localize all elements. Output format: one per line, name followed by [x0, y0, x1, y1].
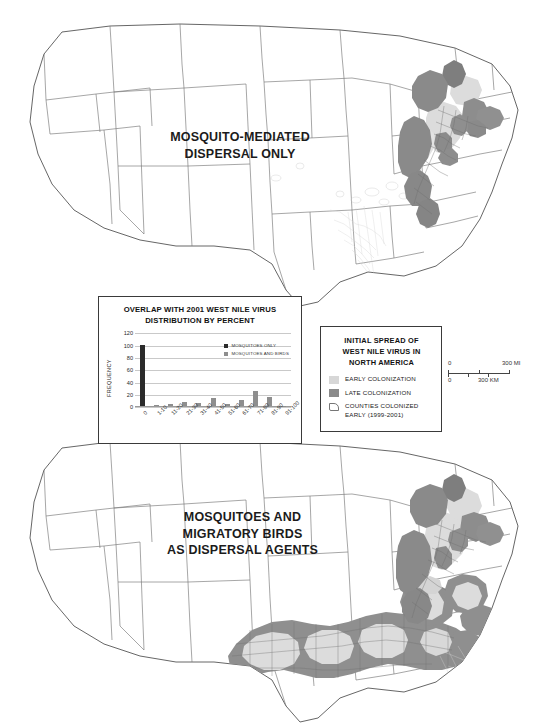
map-legend-entries: EARLY COLONIZATIONLATE COLONIZATIONCOUNT… — [329, 375, 434, 420]
scale-bar-miles-end: 300 MI — [502, 360, 520, 366]
map-legend-label-line: COUNTIES COLONIZED — [345, 402, 418, 411]
scale-bar-miles-row: 0 300 MI — [448, 360, 534, 370]
scale-bar: 0 300 MI 0 300 KM — [448, 360, 534, 387]
overlap-bar-chart-card: OVERLAP WITH 2001 WEST NILE VIRUS DISTRI… — [98, 296, 302, 444]
map-legend-item: EARLY COLONIZATION — [329, 375, 434, 384]
chart-x-tick-slot: 31-40 — [192, 409, 206, 437]
chart-bar-slot — [135, 333, 149, 406]
map-legend-title: INITIAL SPREAD OF WEST NILE VIRUS IN NOR… — [329, 335, 434, 368]
scale-bar-km-row: 0 300 KM — [448, 377, 534, 387]
chart-x-tick-slot: 1-10 — [149, 409, 163, 437]
map-legend-label: EARLY COLONIZATION — [345, 375, 416, 384]
us-map-mosquito-only — [0, 14, 543, 314]
chart-y-tick-label: 100 — [113, 343, 133, 349]
map-panel-bottom — [0, 430, 543, 726]
chart-bar-slot — [192, 333, 206, 406]
chart-x-tick-slot: 41-50 — [206, 409, 220, 437]
chart-x-axis-ticks: 01-1011-2021-3031-4041-5051-6061-7071-80… — [135, 409, 291, 437]
map-legend-title-line-2: WEST NILE VIRUS IN — [329, 346, 434, 357]
chart-x-tick-slot: 71-80 — [249, 409, 263, 437]
scale-bar-miles-start: 0 — [448, 360, 451, 366]
chart-x-tick-slot: 91-100 — [277, 409, 291, 437]
map-legend-swatch-early — [329, 376, 339, 384]
chart-y-tick-label: 0 — [113, 404, 133, 410]
chart-x-tick-slot: 61-70 — [234, 409, 248, 437]
scale-bar-km-end: 300 KM — [478, 377, 499, 383]
chart-title-line-1: OVERLAP WITH 2001 WEST NILE VIRUS — [105, 304, 295, 315]
figure-west-nile-dispersal: MOSQUITO-MEDIATED DISPERSAL ONLY — [0, 0, 543, 728]
map-legend-label-line: EARLY COLONIZATION — [345, 375, 416, 384]
chart-y-tick-label: 60 — [113, 367, 133, 373]
chart-bar-slot — [149, 333, 163, 406]
chart-bar — [168, 404, 173, 406]
map-legend-item: LATE COLONIZATION — [329, 389, 434, 398]
chart-x-tick-slot: 51-60 — [220, 409, 234, 437]
chart-bar-slot — [178, 333, 192, 406]
chart-x-tick-label: 0 — [142, 410, 148, 416]
chart-legend: MOSQUITOES ONLYMOSQUITOES AND BIRDS — [224, 343, 289, 359]
chart-y-tick-label: 40 — [113, 380, 133, 386]
map-legend-title-line-1: INITIAL SPREAD OF — [329, 335, 434, 346]
map-legend-card: INITIAL SPREAD OF WEST NILE VIRUS IN NOR… — [320, 326, 442, 432]
scale-bar-graphic — [448, 370, 534, 377]
map-legend-swatch-county — [329, 403, 339, 411]
chart-x-tick-slot: 11-20 — [163, 409, 177, 437]
chart-y-tick-label: 80 — [113, 355, 133, 361]
map-legend-title-line-3: NORTH AMERICA — [329, 357, 434, 368]
chart-legend-item: MOSQUITOES AND BIRDS — [224, 351, 289, 356]
chart-x-tick-slot: 81-90 — [263, 409, 277, 437]
chart-bar-slot — [206, 333, 220, 406]
map-panel-top — [0, 14, 543, 314]
chart-x-tick-slot: 21-30 — [178, 409, 192, 437]
us-map-mosquitoes-and-birds — [0, 430, 543, 726]
chart-title: OVERLAP WITH 2001 WEST NILE VIRUS DISTRI… — [105, 304, 295, 326]
chart-legend-label: MOSQUITOES AND BIRDS — [231, 351, 289, 356]
chart-title-line-2: DISTRIBUTION BY PERCENT — [105, 315, 295, 326]
chart-legend-item: MOSQUITOES ONLY — [224, 343, 289, 348]
chart-x-tick-slot: 0 — [135, 409, 149, 437]
chart-legend-label: MOSQUITOES ONLY — [231, 343, 276, 348]
chart-legend-swatch — [224, 344, 228, 348]
chart-bar — [140, 345, 145, 406]
chart-y-tick-label: 120 — [113, 330, 133, 336]
scale-bar-km-start: 0 — [448, 377, 451, 383]
map-legend-label-line: EARLY (1999-2001) — [345, 411, 418, 420]
chart-plot-wrapper: FREQUENCY 020406080100120 01-1011-2021-3… — [105, 331, 295, 439]
chart-y-tick-label: 20 — [113, 392, 133, 398]
map-legend-label: LATE COLONIZATION — [345, 389, 411, 398]
chart-bar-slot — [163, 333, 177, 406]
map-legend-label-line: LATE COLONIZATION — [345, 389, 411, 398]
map-legend-swatch-late — [329, 389, 339, 397]
chart-legend-swatch — [224, 352, 228, 356]
map-legend-label: COUNTIES COLONIZEDEARLY (1999-2001) — [345, 402, 418, 420]
chart-bar — [154, 405, 159, 406]
map-legend-item: COUNTIES COLONIZEDEARLY (1999-2001) — [329, 402, 434, 420]
